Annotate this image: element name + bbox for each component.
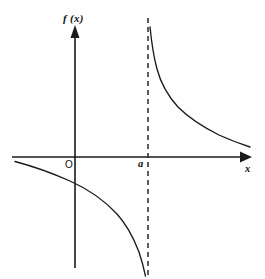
curve-branch-lower-left <box>15 162 146 277</box>
graph-canvas <box>0 0 265 279</box>
curve-branch-upper-right <box>150 27 250 147</box>
x-axis-label: x <box>245 164 250 175</box>
asymptote-label: a <box>138 159 143 170</box>
y-axis-label: f (x) <box>63 13 84 24</box>
hyperbola-figure: f (x) O a x <box>0 0 265 279</box>
y-axis-arrow-icon <box>71 25 80 38</box>
origin-label: O <box>65 160 73 170</box>
x-axis-arrow-icon <box>240 152 252 163</box>
